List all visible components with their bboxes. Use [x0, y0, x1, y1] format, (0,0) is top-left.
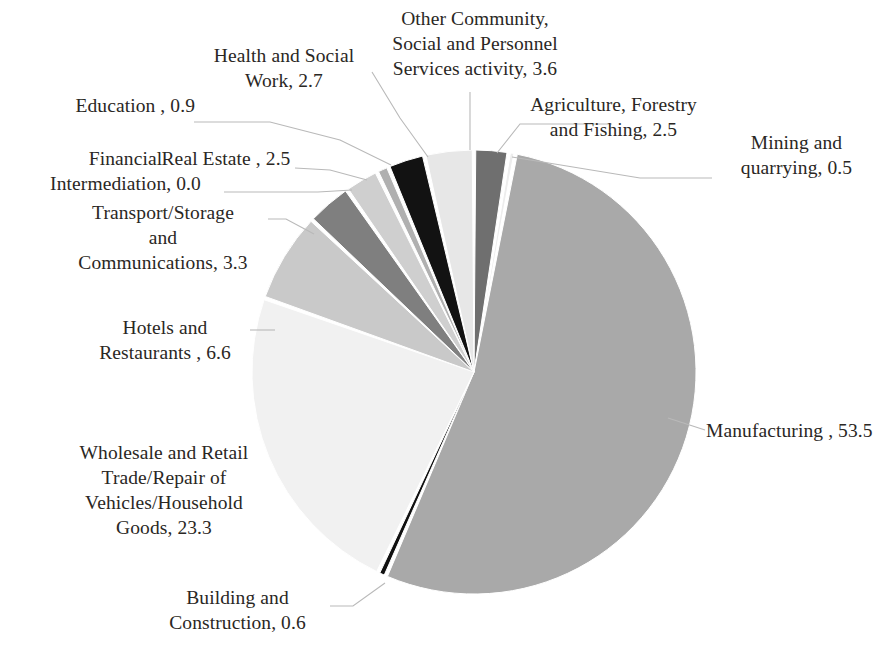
slice-label-mining-quarrying: Mining and quarrying, 0.5	[709, 130, 884, 180]
slice-label-hotels-restaurants: Hotels and Restaurants , 6.6	[75, 315, 255, 365]
leader-line-realestate	[295, 168, 367, 180]
slice-label-education: Education , 0.9	[40, 93, 195, 118]
slice-label-financial-intermediation: Financial Intermediation, 0.0	[23, 146, 228, 196]
slice-label-wholesale-retail-trade: Wholesale and Retail Trade/Repair of Veh…	[58, 440, 270, 540]
pie-slices-group	[252, 150, 696, 594]
pie-chart-figure: Other Community, Social and Personnel Se…	[0, 0, 889, 653]
leader-line-financial	[224, 190, 352, 192]
slice-label-health-social-work: Health and Social Work, 2.7	[193, 43, 375, 93]
slice-label-transport-storage-communications: Transport/Storage and Communications, 3.…	[58, 200, 268, 275]
leader-line-building	[330, 583, 385, 606]
slice-label-other-community: Other Community, Social and Personnel Se…	[368, 6, 582, 81]
slice-label-manufacturing: Manufacturing , 53.5	[706, 418, 889, 443]
slice-label-agriculture-forestry-fishing: Agriculture, Forestry and Fishing, 2.5	[512, 92, 715, 142]
slice-label-building-construction: Building and Construction, 0.6	[140, 585, 335, 635]
leader-line-health	[372, 72, 428, 157]
